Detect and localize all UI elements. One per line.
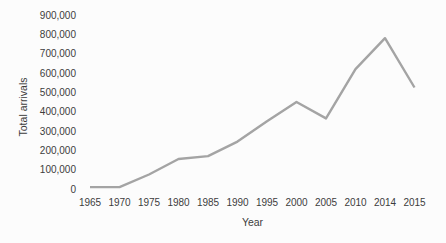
x-tick-label: 2014: [374, 197, 396, 209]
x-tick-label: 1985: [197, 197, 219, 209]
data-line-series: [90, 38, 415, 187]
x-tick-label: 1990: [226, 197, 248, 209]
x-tick-label: 2010: [344, 197, 366, 209]
x-tick-label: 1975: [138, 197, 160, 209]
x-tick-label: 1995: [256, 197, 278, 209]
line-chart-figure: Total arrivals 0100,000200,000300,000400…: [0, 0, 446, 243]
x-tick-label: 2015: [403, 197, 425, 209]
x-tick-label: 1970: [108, 197, 130, 209]
x-tick-label: 1980: [167, 197, 189, 209]
x-tick-label: 2005: [315, 197, 337, 209]
x-tick-label: 1965: [79, 197, 101, 209]
x-axis-title: Year: [90, 216, 415, 228]
x-tick-label: 2000: [285, 197, 307, 209]
